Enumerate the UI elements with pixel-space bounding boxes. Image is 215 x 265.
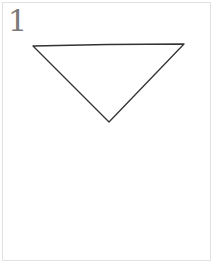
triangle-outline (33, 44, 184, 122)
triangle-drawing (0, 0, 215, 265)
